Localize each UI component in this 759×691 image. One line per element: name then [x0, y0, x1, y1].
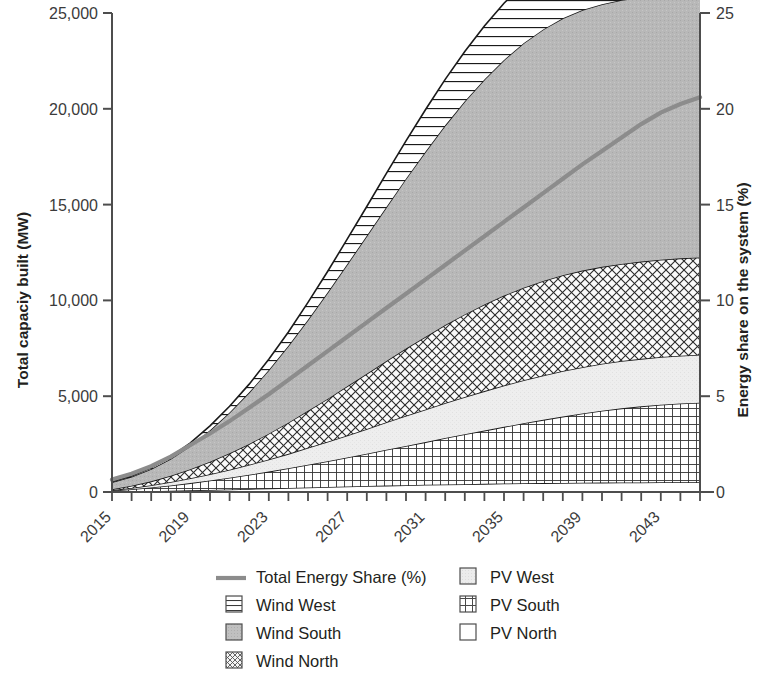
legend-swatch [460, 568, 476, 584]
legend-swatch [226, 596, 242, 612]
legend-label: PV South [490, 596, 560, 614]
y2-tick-label: 0 [716, 484, 725, 501]
y-tick-label: 25,000 [49, 5, 98, 22]
y-axis-title: Total capaciy built (MW) [14, 212, 31, 388]
y2-tick-label: 15 [716, 197, 734, 214]
y2-tick-label: 25 [716, 5, 734, 22]
legend-swatch [226, 624, 242, 640]
y-tick-label: 0 [89, 484, 98, 501]
legend-item-pv-west[interactable]: PV West [460, 568, 554, 586]
legend-swatch [460, 624, 476, 640]
y-tick-label: 5,000 [58, 388, 98, 405]
y2-tick-label: 20 [716, 101, 734, 118]
y-tick-label: 20,000 [49, 101, 98, 118]
y2-tick-label: 5 [716, 388, 725, 405]
y2-axis-title: Energy share on the system (%) [734, 182, 751, 417]
chart-page: 05,00010,00015,00020,00025,0000510152025… [0, 0, 759, 691]
y-tick-label: 15,000 [49, 197, 98, 214]
legend-label: Total Energy Share (%) [256, 568, 427, 586]
legend-label: PV North [490, 624, 557, 642]
legend-label: PV West [490, 568, 554, 586]
y-tick-label: 10,000 [49, 292, 98, 309]
legend-item-pv-south[interactable]: PV South [460, 596, 560, 614]
legend-swatch [460, 596, 476, 612]
stacked-area-chart: 05,00010,00015,00020,00025,0000510152025… [0, 0, 759, 691]
legend-item-wind-west[interactable]: Wind West [226, 596, 336, 614]
legend-label: Wind North [256, 652, 339, 670]
legend-label: Wind West [256, 596, 336, 614]
legend-swatch [226, 652, 242, 668]
legend-item-pv-north[interactable]: PV North [460, 624, 557, 642]
legend-label: Wind South [256, 624, 341, 642]
y2-tick-label: 10 [716, 292, 734, 309]
